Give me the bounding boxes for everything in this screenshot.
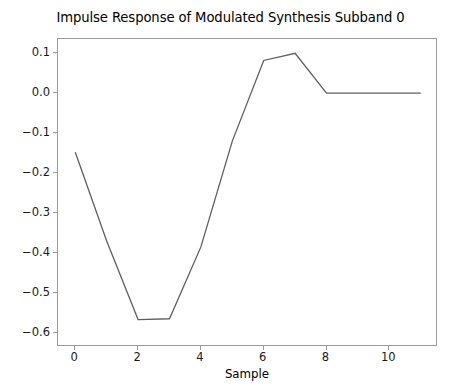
impulse-response-line-series [58, 39, 438, 347]
x-axis-tick-label: 0 [54, 350, 94, 364]
y-axis-tick-label: 0.0 [4, 85, 50, 99]
x-axis-label: Sample [57, 367, 437, 381]
y-axis-tick-label: −0.5 [4, 285, 50, 299]
x-axis-tick-label: 6 [243, 350, 283, 364]
y-axis-tick-label: 0.1 [4, 45, 50, 59]
x-axis-tick-label: 2 [117, 350, 157, 364]
y-axis-tick-label: −0.3 [4, 205, 50, 219]
plot-area [57, 38, 437, 346]
x-axis-tick-label: 10 [368, 350, 408, 364]
x-axis-tick-label: 4 [180, 350, 220, 364]
y-axis-tick-label: −0.6 [4, 325, 50, 339]
y-axis-tick-label: −0.1 [4, 125, 50, 139]
chart-figure: Impulse Response of Modulated Synthesis … [0, 0, 461, 387]
x-axis-tick-label: 8 [306, 350, 346, 364]
chart-title: Impulse Response of Modulated Synthesis … [0, 10, 461, 25]
data-line [75, 53, 420, 319]
y-axis-tick-label: −0.2 [4, 165, 50, 179]
y-axis-tick-label: −0.4 [4, 245, 50, 259]
